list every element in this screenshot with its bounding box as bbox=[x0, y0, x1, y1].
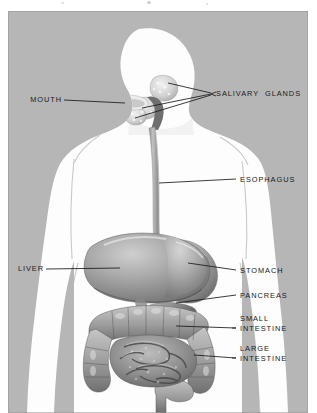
leader-mouth bbox=[64, 100, 125, 103]
scan-artifact bbox=[206, 3, 208, 5]
label-esophagus: ESOPHAGUS bbox=[240, 175, 295, 185]
label-mouth: MOUTH bbox=[16, 95, 62, 105]
label-large-intestine: LARGE INTESTINE bbox=[240, 344, 287, 363]
label-small-intestine-line1: SMALL bbox=[240, 314, 287, 324]
small-intestine-organ bbox=[110, 335, 197, 387]
label-large-intestine-line1: LARGE bbox=[240, 344, 287, 354]
label-large-intestine-line2: INTESTINE bbox=[240, 354, 287, 364]
label-small-intestine-line2: INTESTINE bbox=[240, 324, 287, 334]
label-stomach: STOMACH bbox=[240, 266, 283, 276]
scan-artifact bbox=[61, 2, 64, 4]
scan-artifact bbox=[147, 1, 151, 4]
page-canvas: MOUTH SALIVARY GLANDS ESOPHAGUS LIVER ST… bbox=[0, 0, 317, 413]
label-pancreas: PANCREAS bbox=[240, 291, 288, 301]
label-salivary-glands: SALIVARY GLANDS bbox=[216, 89, 301, 99]
illustration-plate: MOUTH SALIVARY GLANDS ESOPHAGUS LIVER ST… bbox=[8, 11, 308, 413]
label-small-intestine: SMALL INTESTINE bbox=[240, 314, 287, 333]
label-liver: LIVER bbox=[8, 264, 44, 274]
